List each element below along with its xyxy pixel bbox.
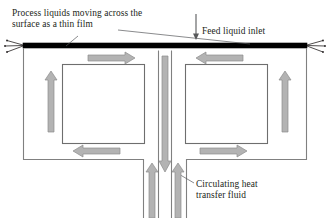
label-circulating-fluid-line2: transfer fluid xyxy=(196,190,246,200)
heat-transfer-plate xyxy=(23,43,307,48)
left-chamber-side-flow-arrow xyxy=(45,71,57,132)
center-left-outflow-arrow xyxy=(146,163,158,218)
left-overflow-lines xyxy=(5,41,23,53)
label-process-liquids-line1: Process liquids moving across the xyxy=(12,8,142,18)
schematic-drawing xyxy=(0,0,330,218)
left-chamber-top-flow-arrow xyxy=(88,52,135,64)
right-chamber-bottom-flow-arrow xyxy=(200,145,247,157)
right-chamber-top-flow-arrow xyxy=(196,52,243,64)
label-feed-liquid-inlet-line1: Feed liquid inlet xyxy=(202,26,265,36)
label-circulating-fluid-line1: Circulating heat xyxy=(196,179,258,189)
feed-inlet-arrow xyxy=(193,14,199,40)
label-process-liquids-line2: surface as a thin film xyxy=(12,19,93,29)
center-inlet-downflow-arrow xyxy=(159,56,171,172)
center-right-outflow-arrow xyxy=(172,163,184,218)
right-chamber xyxy=(186,65,268,144)
label-feed-liquid-inlet: Feed liquid inlet xyxy=(202,26,265,37)
left-chamber-bottom-flow-arrow xyxy=(73,145,120,157)
diagram-canvas: Process liquids moving across thesurface… xyxy=(0,0,330,218)
label-process-liquids: Process liquids moving across thesurface… xyxy=(12,8,142,30)
left-chamber xyxy=(63,65,145,144)
label-circulating-fluid: Circulating heattransfer fluid xyxy=(196,179,258,201)
right-chamber-side-flow-arrow xyxy=(279,71,291,132)
right-overflow-lines xyxy=(307,41,325,53)
